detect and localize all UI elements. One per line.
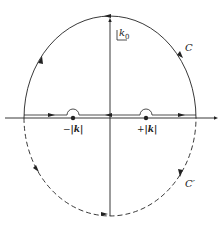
pole-sign: + <box>137 124 145 134</box>
k0-sub: 0 <box>125 33 129 41</box>
axis-label-k0: k0 <box>119 27 130 41</box>
pole-negative <box>71 116 75 120</box>
path-arrow-mid <box>105 113 112 117</box>
label-c: C <box>185 42 193 53</box>
cprime-arrow-right <box>178 169 183 177</box>
contour-diagram <box>0 0 221 226</box>
cprime-arrow-left <box>33 165 39 172</box>
path-arrow-right <box>178 113 185 117</box>
c-arrow-right <box>177 51 183 58</box>
pole-label-negative: −|k| <box>63 124 83 134</box>
c-arrow-top <box>104 14 111 18</box>
pole-sign: − <box>63 124 71 134</box>
path-arrow-left <box>48 113 55 117</box>
label-c-prime: C′ <box>185 178 195 189</box>
pole-positive <box>144 116 148 120</box>
pole-label-positive: +|k| <box>137 124 157 134</box>
pole-value: |k| <box>145 124 158 134</box>
pole-value: |k| <box>71 124 84 134</box>
